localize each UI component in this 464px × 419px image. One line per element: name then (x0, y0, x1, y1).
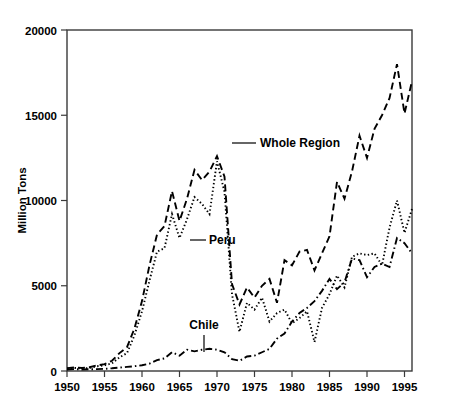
x-axis-label-1980: 1980 (279, 381, 305, 393)
plot-frame (67, 30, 412, 371)
x-axis-label-1960: 1960 (129, 381, 155, 393)
x-axis-label-1950: 1950 (54, 381, 80, 393)
chart-container: 0 5000 10000 15000 20000 Million Tons 19… (0, 0, 464, 419)
y-axis-tick-labels: 0 5000 10000 15000 20000 (25, 25, 57, 378)
data-series-group (67, 64, 412, 369)
annotation-peru: Peru (190, 233, 236, 247)
y-axis-ticks (61, 30, 67, 371)
x-axis-label-1985: 1985 (317, 381, 343, 393)
y-axis-label-10000: 10000 (25, 195, 57, 207)
y-axis-label-0: 0 (51, 366, 57, 378)
x-axis-label-1965: 1965 (167, 381, 193, 393)
y-axis-label-15000: 15000 (25, 110, 57, 122)
fisheries-landings-line-chart: 0 5000 10000 15000 20000 Million Tons 19… (0, 0, 464, 419)
series-line-whole-region (67, 64, 412, 368)
chile-label: Chile (189, 318, 219, 332)
y-axis-label-20000: 20000 (25, 25, 57, 37)
annotation-whole-region: Whole Region (232, 136, 340, 150)
y-axis-label-5000: 5000 (31, 280, 57, 292)
whole-region-label: Whole Region (260, 136, 340, 150)
x-axis-label-1990: 1990 (354, 381, 380, 393)
x-axis-ticks (67, 371, 405, 377)
y-axis-title: Million Tons (16, 167, 28, 233)
peru-label: Peru (209, 233, 236, 247)
x-axis-label-1955: 1955 (92, 381, 118, 393)
x-axis-label-1995: 1995 (392, 381, 418, 393)
x-axis-label-1975: 1975 (242, 381, 268, 393)
x-axis-tick-labels: 1950 1955 1960 1965 1970 1975 1980 1985 … (54, 381, 418, 393)
annotation-chile: Chile (189, 318, 219, 352)
series-line-peru (67, 161, 412, 368)
x-axis-label-1970: 1970 (204, 381, 230, 393)
